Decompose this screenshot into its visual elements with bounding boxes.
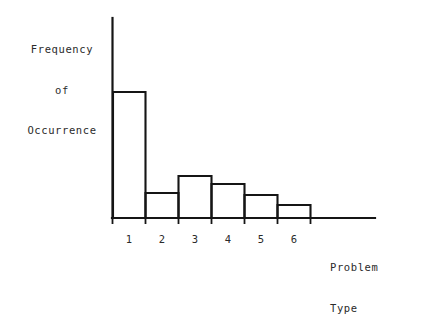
bar-category-2 [146, 193, 179, 218]
x-axis-label-line-2: Type [330, 302, 416, 316]
y-axis-label: Frequency of Occurrence [14, 16, 110, 165]
x-axis-label: Problem Type [330, 234, 416, 318]
y-axis-label-line-1: Frequency [14, 43, 110, 57]
x-tick-label-3: 3 [184, 233, 206, 246]
bar-category-1 [113, 92, 146, 218]
x-tick-label-6: 6 [283, 233, 305, 246]
bar-category-5 [245, 195, 278, 218]
y-axis-label-line-3: Occurrence [14, 124, 110, 138]
bar-category-3 [179, 176, 212, 218]
x-tick-label-4: 4 [217, 233, 239, 246]
bars-group [113, 92, 311, 218]
bar-category-4 [212, 184, 245, 218]
x-tick-label-1: 1 [118, 233, 140, 246]
x-tick-label-5: 5 [250, 233, 272, 246]
y-axis-label-line-2: of [14, 84, 110, 98]
x-axis-label-line-1: Problem [330, 261, 416, 275]
bar-category-6 [278, 205, 311, 218]
x-tick-label-2: 2 [151, 233, 173, 246]
